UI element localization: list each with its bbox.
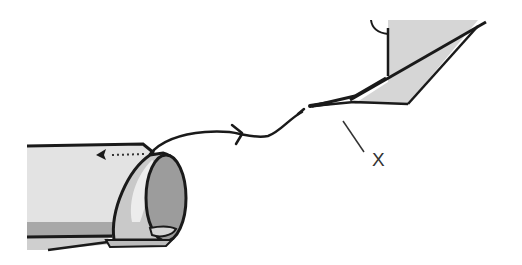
diagram-svg bbox=[0, 0, 522, 265]
thread-line bbox=[150, 112, 302, 154]
label-x: X bbox=[372, 150, 385, 169]
tube-base-bracket bbox=[106, 240, 172, 247]
tube bbox=[27, 144, 186, 250]
diagram-canvas: X bbox=[0, 0, 522, 265]
thread bbox=[150, 109, 304, 154]
tube-bottom-outline bbox=[27, 236, 112, 237]
blade bbox=[310, 20, 486, 106]
label-x-leader-line bbox=[343, 121, 364, 152]
blade-top-curve bbox=[371, 20, 388, 34]
